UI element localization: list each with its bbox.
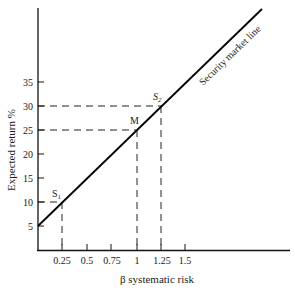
- x-tick-1: 1: [135, 255, 140, 266]
- point-label-s1: S1: [52, 188, 62, 201]
- x-tick-0.5: 0.5: [81, 255, 94, 266]
- y-tick-5: 5: [28, 221, 33, 232]
- x-axis-label: β systematic risk: [120, 273, 195, 285]
- y-tick-10: 10: [23, 197, 33, 208]
- x-tick-1.5: 1.5: [179, 255, 192, 266]
- line-annotation: Security market line: [197, 23, 263, 88]
- y-tick-25: 25: [23, 125, 33, 136]
- y-tick-30: 30: [23, 101, 33, 112]
- point-label-s2: S2: [153, 91, 162, 104]
- sml-chart: 5 10 15 20 25 30 35 0.25 0.5 0.75 1 1.25…: [0, 0, 295, 290]
- y-tick-35: 35: [23, 77, 33, 88]
- y-axis-label: Expected return %: [5, 109, 17, 191]
- y-tick-labels: 5 10 15 20 25 30 35: [23, 77, 33, 232]
- x-tick-labels: 0.25 0.5 0.75 1 1.25 1.5: [53, 255, 191, 266]
- y-ticks: [38, 82, 44, 226]
- x-tick-0.25: 0.25: [53, 255, 71, 266]
- reference-lines: [38, 106, 161, 250]
- x-tick-1.25: 1.25: [153, 255, 171, 266]
- security-market-line: [38, 9, 262, 226]
- x-ticks: [62, 244, 185, 250]
- y-tick-20: 20: [23, 149, 33, 160]
- y-tick-15: 15: [23, 173, 33, 184]
- point-label-m: M: [130, 115, 139, 126]
- x-tick-0.75: 0.75: [103, 255, 121, 266]
